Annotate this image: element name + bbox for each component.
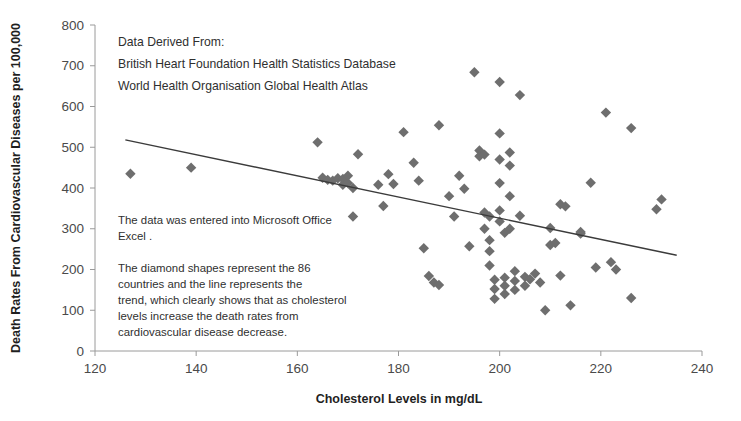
data-point-marker xyxy=(656,194,666,204)
x-tick-label: 140 xyxy=(185,361,208,376)
data-point-marker xyxy=(515,90,525,100)
data-point-marker xyxy=(469,67,479,77)
x-axis-ticks: 120140160180200220240 xyxy=(84,351,714,376)
annotation-method-line-1: The data was entered into Microsoft Offi… xyxy=(118,214,332,226)
data-point-marker xyxy=(414,175,424,185)
data-point-marker xyxy=(348,211,358,221)
data-point-marker xyxy=(494,178,504,188)
x-tick-label: 240 xyxy=(691,361,714,376)
data-point-marker xyxy=(626,293,636,303)
data-point-marker xyxy=(484,260,494,270)
data-point-marker xyxy=(373,180,383,190)
annotation-method-block: The data was entered into Microsoft Offi… xyxy=(118,214,332,242)
data-point-marker xyxy=(353,149,363,159)
data-point-marker xyxy=(565,300,575,310)
data-point-marker xyxy=(601,107,611,117)
y-tick-label: 400 xyxy=(61,181,84,196)
y-tick-label: 300 xyxy=(61,221,84,236)
y-tick-label: 100 xyxy=(61,303,84,318)
data-point-marker xyxy=(494,205,504,215)
data-point-marker xyxy=(494,77,504,87)
data-point-marker xyxy=(535,277,545,287)
data-point-marker xyxy=(540,305,550,315)
data-point-marker xyxy=(434,120,444,130)
y-axis-title: Death Rates From Cardiovascular Diseases… xyxy=(9,23,23,353)
data-point-marker xyxy=(186,162,196,172)
data-point-marker xyxy=(484,246,494,256)
x-axis-title: Cholesterol Levels in mg/dL xyxy=(316,392,483,406)
chart-canvas: 0100200300400500600700800 12014016018020… xyxy=(0,0,741,421)
data-point-marker xyxy=(555,270,565,280)
x-tick-label: 220 xyxy=(590,361,613,376)
data-point-marker xyxy=(464,241,474,251)
annotation-explain-line-5: cardiovascular disease decrease. xyxy=(118,326,287,338)
y-tick-label: 800 xyxy=(61,18,84,33)
data-point-marker xyxy=(398,127,408,137)
data-point-marker xyxy=(125,169,135,179)
annotation-explain-block: The diamond shapes represent the 86 coun… xyxy=(118,262,347,338)
data-point-marker xyxy=(378,201,388,211)
annotation-source-line-2: British Heart Foundation Health Statisti… xyxy=(118,57,396,71)
data-point-marker xyxy=(505,160,515,170)
data-point-marker xyxy=(489,274,499,284)
x-tick-label: 200 xyxy=(488,361,511,376)
data-point-marker xyxy=(505,191,515,201)
data-point-marker xyxy=(388,179,398,189)
data-point-marker xyxy=(489,294,499,304)
data-point-marker xyxy=(489,284,499,294)
data-point-marker xyxy=(510,285,520,295)
data-point-marker xyxy=(494,128,504,138)
data-point-marker xyxy=(459,184,469,194)
annotation-source-line-1: Data Derived From: xyxy=(118,35,224,49)
x-tick-label: 180 xyxy=(387,361,410,376)
annotation-source-line-3: World Health Organisation Global Health … xyxy=(118,79,368,93)
y-tick-label: 600 xyxy=(61,99,84,114)
y-tick-label: 0 xyxy=(76,344,84,359)
annotation-source-block: Data Derived From: British Heart Foundat… xyxy=(118,35,396,93)
data-point-marker xyxy=(591,262,601,272)
x-tick-label: 160 xyxy=(286,361,309,376)
data-point-marker xyxy=(586,178,596,188)
data-point-marker xyxy=(494,154,504,164)
data-point-marker xyxy=(444,191,454,201)
data-point-marker xyxy=(510,276,520,286)
data-point-marker xyxy=(515,211,525,221)
y-tick-label: 200 xyxy=(61,262,84,277)
y-axis-ticks: 0100200300400500600700800 xyxy=(61,18,95,359)
annotation-explain-line-2: countries and the line represents the xyxy=(118,278,302,290)
data-point-marker xyxy=(505,147,515,157)
trend-line xyxy=(125,140,676,255)
annotation-explain-line-3: trend, which clearly shows that as chole… xyxy=(118,294,347,306)
data-point-marker xyxy=(383,169,393,179)
x-tick-label: 120 xyxy=(84,361,107,376)
data-point-marker xyxy=(312,137,322,147)
y-tick-label: 500 xyxy=(61,140,84,155)
scatter-chart: 0100200300400500600700800 12014016018020… xyxy=(0,0,741,421)
data-point-marker xyxy=(500,289,510,299)
y-tick-label: 700 xyxy=(61,58,84,73)
data-point-marker xyxy=(454,171,464,181)
data-point-marker xyxy=(484,235,494,245)
data-point-marker xyxy=(626,123,636,133)
data-point-marker xyxy=(419,243,429,253)
data-point-marker xyxy=(449,211,459,221)
annotation-method-line-2: Excel . xyxy=(118,230,152,242)
data-point-marker xyxy=(651,204,661,214)
annotation-explain-line-1: The diamond shapes represent the 86 xyxy=(118,262,311,274)
annotation-explain-line-4: levels increase the death rates from xyxy=(118,310,298,322)
data-point-marker xyxy=(408,158,418,168)
data-point-marker xyxy=(479,224,489,234)
data-point-marker xyxy=(510,266,520,276)
